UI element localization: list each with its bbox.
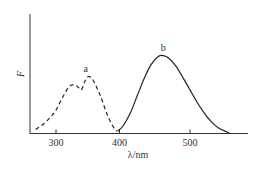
fluorescence-spectrum-chart: 300400500 a b λ/nm F — [0, 0, 263, 169]
x-ticks: 300400500 — [49, 130, 198, 149]
plot-area: 300400500 a b λ/nm F — [15, 14, 248, 160]
y-axis-label: F — [15, 70, 26, 78]
series-b-label: b — [161, 42, 166, 53]
series-a-curve — [36, 76, 117, 131]
x-tick-label: 500 — [183, 137, 198, 148]
x-tick-label: 300 — [49, 137, 64, 148]
series-a-label: a — [84, 63, 89, 74]
x-tick-label: 400 — [112, 137, 127, 148]
x-axis-label: λ/nm — [128, 149, 149, 160]
series-b-curve — [118, 55, 230, 133]
